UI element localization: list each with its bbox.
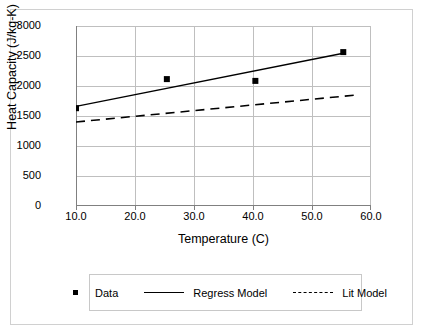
dashed-line-icon xyxy=(293,292,333,293)
y-tick-label-500: 500 xyxy=(0,170,41,181)
solid-line-icon xyxy=(144,292,184,293)
y-tick-label-2000: 2000 xyxy=(0,80,41,91)
chart-figure: Heat Capacity (J/kg-K) 3000 2500 2000 15… xyxy=(0,0,423,335)
x-tick-marks xyxy=(76,26,371,212)
y-tick-label-1500: 1500 xyxy=(0,110,41,121)
x-tick-label-60: 60.0 xyxy=(341,211,401,222)
x-axis-title: Temperature (C) xyxy=(76,232,371,246)
legend-item-data: Data xyxy=(64,287,118,299)
y-tick-label-3000: 3000 xyxy=(0,20,41,31)
legend-label-regress-model: Regress Model xyxy=(193,287,267,299)
legend-item-regress-model: Regress Model xyxy=(144,287,267,299)
legend-item-lit-model: Lit Model xyxy=(293,287,387,299)
legend-label-data: Data xyxy=(95,287,118,299)
x-tick-label-30: 30.0 xyxy=(164,211,224,222)
x-tick-label-40: 40.0 xyxy=(223,211,283,222)
chart-legend: Data Regress Model Lit Model xyxy=(89,274,362,311)
x-tick-label-20: 20.0 xyxy=(105,211,165,222)
x-tick-label-50: 50.0 xyxy=(282,211,342,222)
legend-label-lit-model: Lit Model xyxy=(342,287,387,299)
y-tick-label-0: 0 xyxy=(0,200,41,211)
square-marker-icon xyxy=(64,290,86,295)
y-tick-label-2500: 2500 xyxy=(0,50,41,61)
x-tick-label-10: 10.0 xyxy=(46,211,106,222)
plot-area xyxy=(76,26,371,206)
y-tick-label-1000: 1000 xyxy=(0,140,41,151)
